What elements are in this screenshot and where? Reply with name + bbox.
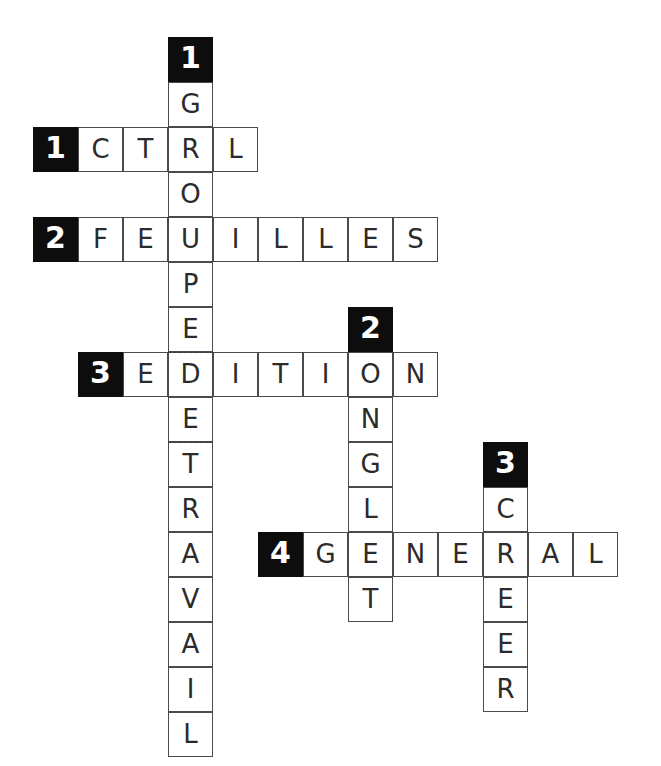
cell-down-1-11[interactable]: A: [168, 532, 213, 577]
clue-number-1-down[interactable]: 1: [168, 37, 213, 82]
cell-across-3-6[interactable]: O: [348, 352, 393, 397]
word-break-separator-1-1: [168, 352, 213, 353]
cell-down-2-4[interactable]: L: [348, 487, 393, 532]
cell-across-2-2[interactable]: E: [123, 217, 168, 262]
word-break-separator-1-2: [168, 442, 213, 443]
cell-down-2-6[interactable]: T: [348, 577, 393, 622]
cell-across-1-1[interactable]: C: [78, 127, 123, 172]
clue-number-1-across[interactable]: 1: [33, 127, 78, 172]
cell-down-1-2[interactable]: R: [168, 127, 213, 172]
cell-across-4-3[interactable]: N: [393, 532, 438, 577]
cell-across-3-7[interactable]: N: [393, 352, 438, 397]
clue-number-2-down[interactable]: 2: [348, 307, 393, 352]
cell-down-3-2[interactable]: R: [483, 532, 528, 577]
cell-down-3-1[interactable]: C: [483, 487, 528, 532]
cell-down-1-9[interactable]: T: [168, 442, 213, 487]
cell-down-2-3[interactable]: G: [348, 442, 393, 487]
cell-down-3-3[interactable]: E: [483, 577, 528, 622]
cell-across-1-4[interactable]: L: [213, 127, 258, 172]
cell-down-1-7[interactable]: D: [168, 352, 213, 397]
cell-across-2-5[interactable]: L: [258, 217, 303, 262]
clue-number-3-down[interactable]: 3: [483, 442, 528, 487]
cell-down-1-10[interactable]: R: [168, 487, 213, 532]
cell-across-3-3[interactable]: I: [213, 352, 258, 397]
clue-number-2-across[interactable]: 2: [33, 217, 78, 262]
cell-across-2-8[interactable]: S: [393, 217, 438, 262]
cell-across-1-2[interactable]: T: [123, 127, 168, 172]
cell-down-1-5[interactable]: P: [168, 262, 213, 307]
cell-down-1-8[interactable]: E: [168, 397, 213, 442]
cell-down-1-14[interactable]: I: [168, 667, 213, 712]
cell-across-3-4[interactable]: T: [258, 352, 303, 397]
cell-down-1-13[interactable]: A: [168, 622, 213, 667]
cell-across-4-4[interactable]: E: [438, 532, 483, 577]
cell-down-1-3[interactable]: O: [168, 172, 213, 217]
cell-down-2-5[interactable]: E: [348, 532, 393, 577]
cell-down-1-1[interactable]: G: [168, 82, 213, 127]
clue-number-3-across[interactable]: 3: [78, 352, 123, 397]
cell-down-1-4[interactable]: U: [168, 217, 213, 262]
cell-down-1-15[interactable]: L: [168, 712, 213, 757]
cell-across-2-6[interactable]: L: [303, 217, 348, 262]
cell-across-4-7[interactable]: L: [573, 532, 618, 577]
cell-down-1-12[interactable]: V: [168, 577, 213, 622]
crossword-grid: 1GROUPEDETRAVAIL1CTL2FEILLES3EITION2NGLE…: [0, 0, 661, 766]
cell-across-2-4[interactable]: I: [213, 217, 258, 262]
cell-down-1-6[interactable]: E: [168, 307, 213, 352]
cell-down-2-2[interactable]: N: [348, 397, 393, 442]
cell-down-3-5[interactable]: R: [483, 667, 528, 712]
cell-across-2-7[interactable]: E: [348, 217, 393, 262]
cell-across-3-5[interactable]: I: [303, 352, 348, 397]
cell-across-2-1[interactable]: F: [78, 217, 123, 262]
clue-number-4-across[interactable]: 4: [258, 532, 303, 577]
cell-down-3-4[interactable]: E: [483, 622, 528, 667]
cell-across-4-6[interactable]: A: [528, 532, 573, 577]
cell-across-3-1[interactable]: E: [123, 352, 168, 397]
cell-across-4-1[interactable]: G: [303, 532, 348, 577]
